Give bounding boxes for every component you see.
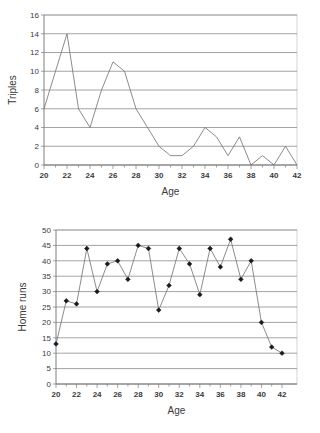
- x-tick-label: 40: [270, 171, 279, 180]
- x-tick-label: 28: [134, 390, 143, 399]
- x-tick-label: 26: [109, 171, 118, 180]
- y-tick-label: 35: [42, 272, 51, 281]
- y-tick-label: 0: [35, 161, 40, 170]
- data-point-marker: [95, 289, 100, 294]
- y-tick-label: 5: [47, 364, 52, 373]
- x-tick-label: 42: [278, 390, 287, 399]
- triples-chart-canvas: 0246810121416202224262830323436384042Age…: [0, 0, 320, 212]
- data-point-marker: [84, 246, 89, 251]
- y-axis-title: Triples: [7, 75, 18, 105]
- x-tick-label: 22: [72, 390, 81, 399]
- data-point-marker: [208, 246, 213, 251]
- data-point-marker: [280, 351, 285, 356]
- y-tick-label: 16: [30, 11, 39, 20]
- x-tick-label: 38: [236, 390, 245, 399]
- y-tick-label: 25: [42, 303, 51, 312]
- y-tick-label: 12: [30, 48, 39, 57]
- x-tick-label: 36: [224, 171, 233, 180]
- x-tick-label: 32: [178, 171, 187, 180]
- data-point-marker: [136, 243, 141, 248]
- x-tick-label: 22: [63, 171, 72, 180]
- x-tick-label: 20: [52, 390, 61, 399]
- data-point-marker: [228, 237, 233, 242]
- data-point-marker: [115, 258, 120, 263]
- y-tick-label: 15: [42, 334, 51, 343]
- x-tick-label: 30: [154, 390, 163, 399]
- x-tick-label: 42: [293, 171, 302, 180]
- data-point-marker: [187, 261, 192, 266]
- y-tick-label: 45: [42, 241, 51, 250]
- data-point-marker: [218, 265, 223, 270]
- y-tick-label: 2: [35, 142, 40, 151]
- x-tick-label: 24: [86, 171, 95, 180]
- data-point-marker: [197, 292, 202, 297]
- x-tick-label: 28: [132, 171, 141, 180]
- data-series-line: [44, 34, 297, 165]
- x-tick-label: 36: [216, 390, 225, 399]
- figure-container: 0246810121416202224262830323436384042Age…: [0, 0, 320, 433]
- data-point-marker: [259, 320, 264, 325]
- data-point-marker: [64, 298, 69, 303]
- data-point-marker: [126, 277, 131, 282]
- data-point-marker: [177, 246, 182, 251]
- y-tick-label: 14: [30, 30, 39, 39]
- x-tick-label: 20: [40, 171, 49, 180]
- triples-chart: 0246810121416202224262830323436384042Age…: [0, 0, 320, 212]
- data-point-marker: [74, 302, 79, 307]
- y-tick-label: 40: [42, 257, 51, 266]
- data-point-marker: [146, 246, 151, 251]
- y-tick-label: 6: [35, 105, 40, 114]
- data-point-marker: [156, 308, 161, 313]
- x-tick-label: 34: [201, 171, 210, 180]
- x-tick-label: 30: [155, 171, 164, 180]
- y-tick-label: 0: [47, 380, 52, 389]
- y-tick-label: 4: [35, 123, 40, 132]
- data-point-marker: [167, 283, 172, 288]
- y-tick-label: 10: [42, 349, 51, 358]
- data-series-line: [56, 239, 282, 353]
- data-point-marker: [54, 342, 59, 347]
- x-tick-label: 40: [257, 390, 266, 399]
- y-tick-label: 30: [42, 287, 51, 296]
- data-point-marker: [269, 345, 274, 350]
- x-tick-label: 32: [175, 390, 184, 399]
- x-tick-label: 38: [247, 171, 256, 180]
- x-tick-label: 34: [195, 390, 204, 399]
- data-point-marker: [105, 261, 110, 266]
- y-tick-label: 50: [42, 226, 51, 235]
- y-tick-label: 10: [30, 67, 39, 76]
- y-tick-label: 8: [35, 86, 40, 95]
- x-tick-label: 26: [113, 390, 122, 399]
- home-runs-chart-canvas: 0510152025303540455020222426283032343638…: [0, 212, 320, 433]
- home-runs-chart: 0510152025303540455020222426283032343638…: [0, 212, 320, 433]
- y-tick-label: 20: [42, 318, 51, 327]
- x-tick-label: 24: [93, 390, 102, 399]
- x-axis-title: Age: [162, 186, 180, 197]
- data-point-marker: [249, 258, 254, 263]
- data-point-marker: [239, 277, 244, 282]
- y-axis-title: Home runs: [17, 283, 28, 332]
- x-axis-title: Age: [168, 405, 186, 416]
